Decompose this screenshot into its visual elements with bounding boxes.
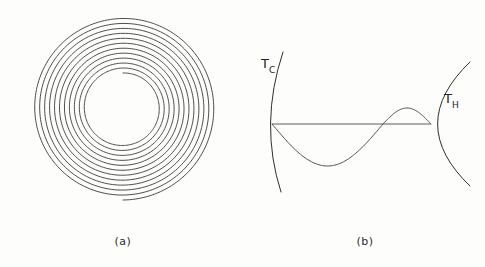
figure-container: (a) T C T H (b)	[0, 0, 485, 267]
hot-label-base: T	[443, 91, 452, 106]
temperature-perturbation-curve	[272, 108, 431, 166]
spiral-coil	[35, 18, 214, 200]
caption-panel-b: (b)	[356, 235, 373, 248]
caption-panel-a: (a)	[115, 235, 132, 248]
panel-b-group	[270, 52, 470, 192]
cold-label-subscript: C	[269, 65, 275, 75]
hot-label-subscript: H	[452, 100, 459, 110]
hot-boundary-arc	[438, 62, 471, 186]
hot-temperature-label: T H	[443, 91, 459, 110]
panel-a-group	[35, 18, 214, 200]
cold-label-base: T	[260, 56, 269, 71]
cold-temperature-label: T C	[260, 56, 275, 75]
figure-canvas: (a) T C T H (b)	[0, 0, 485, 267]
